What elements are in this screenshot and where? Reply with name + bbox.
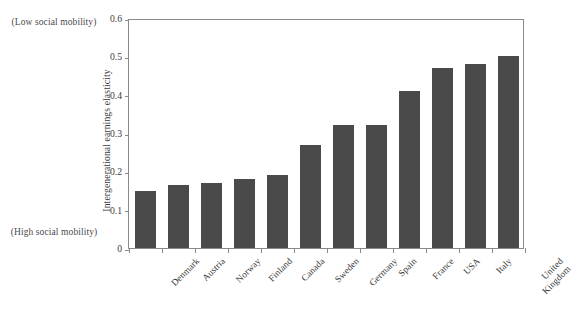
annotation-low-social-mobility: (Low social mobility) (8, 16, 100, 28)
x-axis-label: Austria (200, 256, 227, 283)
y-tick-label: 0 (117, 243, 122, 254)
y-tick-mark (125, 58, 129, 59)
x-axis-label: Denmark (169, 256, 201, 288)
x-tick-mark (360, 248, 361, 253)
x-axis-label: Finland (266, 256, 294, 284)
y-tick-mark (125, 135, 129, 136)
bar (432, 68, 454, 248)
y-tick-label: 0.6 (110, 13, 122, 24)
x-tick-mark (327, 248, 328, 253)
bar (201, 183, 223, 248)
y-tick-label: 0.2 (110, 166, 122, 177)
y-tick-mark (125, 96, 129, 97)
x-tick-mark (294, 248, 295, 253)
x-tick-mark (228, 248, 229, 253)
x-axis-label: France (430, 256, 456, 282)
bar (465, 64, 487, 248)
x-tick-mark (195, 248, 196, 253)
bar (234, 179, 256, 248)
bar (498, 56, 520, 248)
y-tick-mark (125, 211, 129, 212)
y-tick-label: 0.1 (110, 205, 122, 216)
x-axis-label: Canada (299, 256, 327, 284)
x-tick-mark (393, 248, 394, 253)
bar (267, 175, 289, 248)
x-axis-label: Germany (367, 256, 399, 288)
plot-area: 00.10.20.30.40.50.6 (128, 19, 524, 249)
bar (333, 125, 355, 248)
x-tick-mark (261, 248, 262, 253)
bar (135, 191, 157, 249)
bar (366, 125, 388, 248)
x-tick-mark (492, 248, 493, 253)
x-axis-label: Spain (396, 256, 419, 279)
x-axis-label: Norway (233, 256, 262, 285)
x-tick-mark (129, 248, 130, 253)
y-tick-label: 0.5 (110, 51, 122, 62)
y-tick-mark (125, 173, 129, 174)
bar (168, 185, 190, 248)
bar (300, 145, 322, 249)
bar (399, 91, 421, 248)
x-tick-mark (426, 248, 427, 253)
y-tick-mark (125, 20, 129, 21)
x-axis-label: Sweden (332, 256, 361, 285)
annotation-high-social-mobility: (High social mobility) (8, 226, 100, 238)
x-axis-label: Italy (494, 256, 514, 276)
y-tick-label: 0.3 (110, 128, 122, 139)
x-tick-mark (459, 248, 460, 253)
y-tick-label: 0.4 (110, 90, 122, 101)
x-axis-label: USA (461, 256, 482, 277)
x-axis-label: United Kingdom (532, 256, 572, 296)
x-tick-mark (525, 248, 526, 253)
x-tick-mark (162, 248, 163, 253)
